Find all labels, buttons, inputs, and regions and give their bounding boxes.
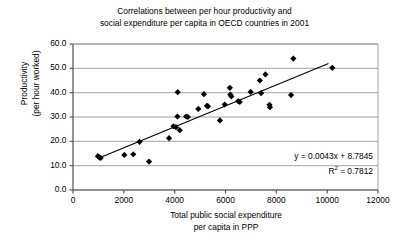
x-axis-label-line-2: per capita in PPP	[73, 222, 379, 234]
x-tick-label: 4000	[150, 195, 200, 205]
y-axis-label: Productivity (per hour worked)	[19, 14, 42, 154]
data-point-marker	[195, 106, 201, 112]
y-tick-label: 40.0	[26, 87, 67, 97]
x-tick-label: 2000	[99, 195, 149, 205]
r2-value: = 0.7812	[338, 166, 373, 176]
data-point-marker	[262, 71, 268, 77]
trendline-equation-box: y = 0.0043x + 8.7845 R2 = 0.7812	[228, 150, 373, 177]
data-point-marker	[146, 158, 152, 164]
data-point-marker	[217, 117, 223, 123]
data-point-marker	[257, 77, 263, 83]
data-point-marker	[130, 151, 136, 157]
x-tick-label: 6000	[201, 195, 251, 205]
trendline-equation: y = 0.0043x + 8.7845	[228, 150, 373, 162]
y-tick-label: 0.0	[26, 184, 67, 194]
data-point-marker	[174, 113, 180, 119]
x-tick-label: 12000	[353, 195, 403, 205]
data-point-marker	[201, 91, 207, 97]
x-axis-label: Total public social expenditure per capi…	[73, 210, 379, 233]
y-tick-label: 20.0	[26, 135, 67, 145]
y-axis-label-line-1: Productivity	[19, 14, 31, 154]
x-axis-label-line-1: Total public social expenditure	[73, 210, 379, 222]
x-tick-label: 0	[48, 195, 98, 205]
trendline-r-squared: R2 = 0.7812	[228, 162, 373, 177]
y-tick-label: 30.0	[26, 111, 67, 121]
data-point-marker	[121, 152, 127, 158]
scatter-chart: Correlations between per hour productivi…	[0, 0, 409, 245]
trendline	[98, 63, 328, 158]
y-axis-label-line-2: (per hour worked)	[30, 14, 42, 154]
x-tick-label: 8000	[251, 195, 301, 205]
data-point-marker	[258, 90, 264, 96]
x-tick-label: 10000	[302, 195, 352, 205]
plot-area	[0, 0, 409, 245]
data-point-marker	[166, 135, 172, 141]
y-tick-label: 60.0	[26, 38, 67, 48]
data-point-marker	[175, 89, 181, 95]
data-point-marker	[227, 85, 233, 91]
y-tick-label: 50.0	[26, 62, 67, 72]
data-point-marker	[329, 65, 335, 71]
y-tick-label: 10.0	[26, 160, 67, 170]
data-point-marker	[290, 56, 296, 62]
data-point-marker	[136, 139, 142, 145]
